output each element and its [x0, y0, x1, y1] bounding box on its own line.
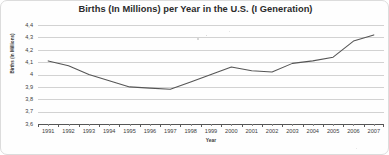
x-axis-tick — [364, 124, 365, 127]
y-axis-tick-label: 4,4 — [11, 22, 33, 28]
chart-title: Births (In Millions) per Year in the U.S… — [1, 4, 389, 14]
x-axis-tick — [201, 124, 202, 127]
x-axis-minor-tick — [109, 124, 110, 126]
x-axis-tick-labels: 1991199219931994199519961997199819992000… — [38, 128, 384, 138]
data-series-line — [38, 25, 384, 124]
x-axis-title: Year — [38, 138, 384, 143]
x-axis-tick — [343, 124, 344, 127]
y-axis-tick-label: 3,6 — [11, 121, 33, 127]
y-axis-tick-label: 4,3 — [11, 34, 33, 40]
x-axis-tick — [38, 124, 39, 127]
x-axis-minor-tick — [89, 124, 90, 126]
x-axis-minor-tick — [374, 124, 375, 126]
x-axis-tick — [119, 124, 120, 127]
x-axis-tick — [303, 124, 304, 127]
y-axis-tick-label: 4,1 — [11, 59, 33, 65]
x-axis-minor-tick — [130, 124, 131, 126]
x-axis-minor-tick — [353, 124, 354, 126]
plot-area — [38, 25, 384, 124]
x-axis-tick — [99, 124, 100, 127]
x-axis-tick — [221, 124, 222, 127]
x-axis-tick — [262, 124, 263, 127]
x-axis-minor-tick — [292, 124, 293, 126]
y-axis-tick-label: 4,2 — [11, 47, 33, 53]
x-axis-minor-tick — [211, 124, 212, 126]
y-axis-tick-labels: 4,44,34,24,143,93,83,73,6 — [11, 25, 35, 124]
y-axis-tick-label: 3,8 — [11, 96, 33, 102]
x-axis-minor-tick — [191, 124, 192, 126]
y-axis-tick-label: 4 — [11, 71, 33, 77]
x-axis-minor-tick — [313, 124, 314, 126]
x-axis-minor-tick — [69, 124, 70, 126]
y-axis-tick-label: 3,9 — [11, 84, 33, 90]
x-axis-minor-tick — [272, 124, 273, 126]
x-axis-tick — [282, 124, 283, 127]
x-axis-minor-tick — [231, 124, 232, 126]
x-axis-tick — [58, 124, 59, 127]
x-axis-tick — [242, 124, 243, 127]
x-axis-tick — [323, 124, 324, 127]
scan-speck — [197, 38, 199, 40]
x-axis-tick — [383, 124, 384, 127]
x-axis-minor-tick — [333, 124, 334, 126]
x-axis-minor-tick — [150, 124, 151, 126]
chart-container: Births (In Millions) per Year in the U.S… — [0, 0, 389, 155]
x-axis-minor-tick — [48, 124, 49, 126]
x-axis-tick — [160, 124, 161, 127]
scan-speck — [356, 148, 357, 149]
x-axis-tick-label: 2007 — [362, 128, 386, 134]
x-axis-minor-tick — [252, 124, 253, 126]
x-axis-tick — [180, 124, 181, 127]
x-axis-tick — [140, 124, 141, 127]
x-axis-minor-tick — [170, 124, 171, 126]
x-axis-tick — [79, 124, 80, 127]
y-axis-tick-label: 3,7 — [11, 108, 33, 114]
